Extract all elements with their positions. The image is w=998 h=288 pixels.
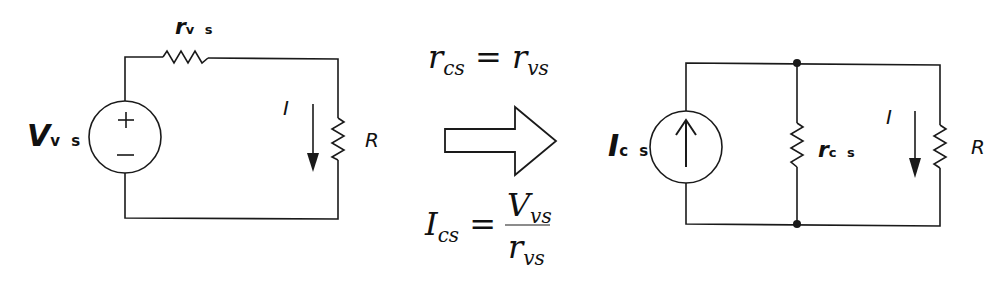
resistor-r-load-left xyxy=(332,118,344,160)
current-arrow-right-head xyxy=(909,158,921,178)
voltage-source-icon xyxy=(89,101,161,173)
current-arrow-left-head xyxy=(307,153,319,172)
transform-arrow-icon xyxy=(445,107,556,175)
fraction-numerator: Vvs xyxy=(507,186,552,228)
resistor-r-load-right xyxy=(934,125,946,168)
label-i-cs: Ic s xyxy=(608,128,651,163)
node-dot-bottom xyxy=(793,220,801,228)
label-v-vs: Vv s xyxy=(27,118,83,153)
right-circuit-wires xyxy=(686,63,940,226)
label-current-right: I xyxy=(886,105,892,129)
equation-bottom-lhs: Ics = xyxy=(425,205,496,247)
label-r-load-right: R xyxy=(971,135,985,159)
node-dot-top xyxy=(793,59,801,67)
label-current-left: I xyxy=(283,96,289,120)
left-circuit-wires xyxy=(125,57,338,219)
resistor-r-vs xyxy=(163,51,208,63)
label-r-cs: rc s xyxy=(818,137,858,162)
label-r-vs: rv s xyxy=(175,14,216,39)
fraction-denominator: rvs xyxy=(508,228,545,270)
equation-top: rcs = rvs xyxy=(428,38,549,80)
label-r-load-left: R xyxy=(365,128,379,152)
resistor-r-cs xyxy=(791,123,803,167)
